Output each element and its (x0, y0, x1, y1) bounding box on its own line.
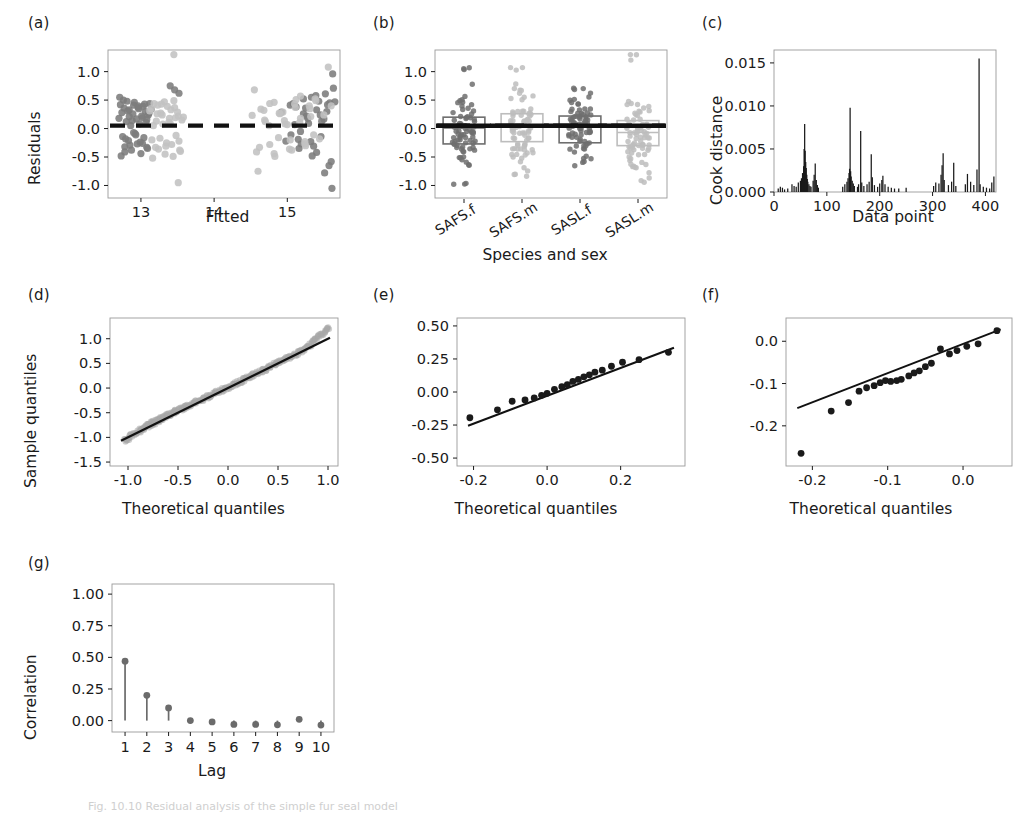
data-point (512, 86, 517, 91)
stem-point (274, 721, 281, 728)
data-point (454, 145, 459, 150)
data-point (628, 52, 633, 57)
data-point (312, 95, 319, 102)
data-point (126, 141, 133, 148)
tick-label: 0.015 (724, 55, 766, 71)
tick-label: 6 (229, 739, 238, 755)
data-point (588, 106, 593, 111)
data-point (509, 398, 516, 405)
data-point (856, 388, 863, 395)
panel-c: (c) 01002003004000.0000.0050.0100.015 Da… (690, 0, 1031, 270)
tick-label: 0.5 (404, 92, 427, 108)
panel-d: (d) -1.0-0.50.00.51.0-1.5-1.0-0.50.00.51… (0, 272, 345, 532)
panel-g-xlabel: Lag (92, 762, 332, 780)
data-point (266, 141, 273, 148)
panel-g-ylabel: Correlation (22, 655, 40, 740)
data-point (467, 127, 472, 132)
data-point (916, 367, 923, 374)
tick-label: 0.0 (79, 380, 102, 396)
data-point (271, 150, 278, 157)
data-point (470, 82, 475, 87)
data-point (325, 162, 332, 169)
tick-label: 0.010 (724, 98, 766, 114)
panel-a-xlabel: Fitted (110, 208, 345, 226)
tick-label: 0.75 (72, 618, 104, 634)
data-point (175, 179, 182, 186)
data-point (122, 135, 129, 142)
data-point (307, 113, 314, 120)
data-point (522, 152, 527, 157)
data-point (898, 376, 905, 383)
tick-label: 0.0 (77, 121, 100, 137)
tick-label: 0.5 (266, 472, 289, 488)
data-point (470, 145, 475, 150)
tick-label: 7 (251, 739, 260, 755)
data-point (306, 105, 313, 112)
tick-label: 2 (142, 739, 151, 755)
data-point (624, 117, 629, 122)
tick-label: -0.5 (164, 472, 192, 488)
data-point (460, 100, 465, 105)
data-point (254, 168, 261, 175)
tick-label: 0.5 (79, 355, 102, 371)
data-point (588, 156, 593, 161)
data-point (329, 70, 336, 77)
panel-e-xlabel: Theoretical quantiles (391, 500, 681, 518)
data-point (463, 135, 468, 140)
data-point (521, 165, 526, 170)
tick-label: -0.50 (411, 450, 449, 466)
data-point (631, 117, 636, 122)
tick-label: -1.0 (114, 472, 142, 488)
data-point (639, 160, 644, 165)
data-point (575, 110, 580, 115)
data-point (585, 141, 590, 146)
panel-f-plot: -0.2-0.10.0-0.2-0.10.0 (690, 294, 1031, 516)
data-point (508, 118, 513, 123)
data-point (569, 107, 574, 112)
tick-label: 0.50 (72, 649, 104, 665)
data-point (460, 149, 465, 154)
data-point (632, 140, 637, 145)
data-point (954, 347, 961, 354)
data-point (638, 138, 643, 143)
tick-label: 0.0 (404, 121, 427, 137)
data-point (494, 406, 501, 413)
data-point (572, 163, 577, 168)
data-point (251, 86, 258, 93)
data-point (530, 147, 535, 152)
tick-label: 5 (208, 739, 217, 755)
data-point (578, 137, 583, 142)
data-point (592, 369, 599, 376)
data-point (152, 144, 159, 151)
tick-label: -1.0 (74, 429, 102, 445)
data-point (524, 174, 529, 179)
data-point (647, 135, 652, 140)
data-point (456, 132, 461, 137)
data-point (510, 109, 515, 114)
data-point (261, 116, 268, 123)
data-point (321, 169, 328, 176)
data-point (116, 94, 123, 101)
data-point (472, 117, 477, 122)
data-point (170, 153, 177, 160)
data-point (524, 117, 529, 122)
stem-point (122, 658, 129, 665)
data-point (845, 399, 852, 406)
tick-label: 10 (312, 739, 330, 755)
data-point (452, 118, 457, 123)
data-point (569, 135, 574, 140)
data-point (137, 150, 144, 157)
tick-label: -0.5 (399, 149, 427, 165)
data-point (526, 135, 531, 140)
data-point (511, 135, 516, 140)
data-point (330, 85, 337, 92)
data-point (798, 450, 805, 457)
data-point (469, 102, 474, 107)
data-point (467, 65, 472, 70)
panel-a-ylabel: Residuals (26, 111, 44, 185)
data-point (576, 101, 581, 106)
panel-b-xlabel: Species and sex (415, 246, 675, 264)
stem-point (318, 722, 325, 729)
data-point (646, 108, 651, 113)
tick-label: 8 (273, 739, 282, 755)
